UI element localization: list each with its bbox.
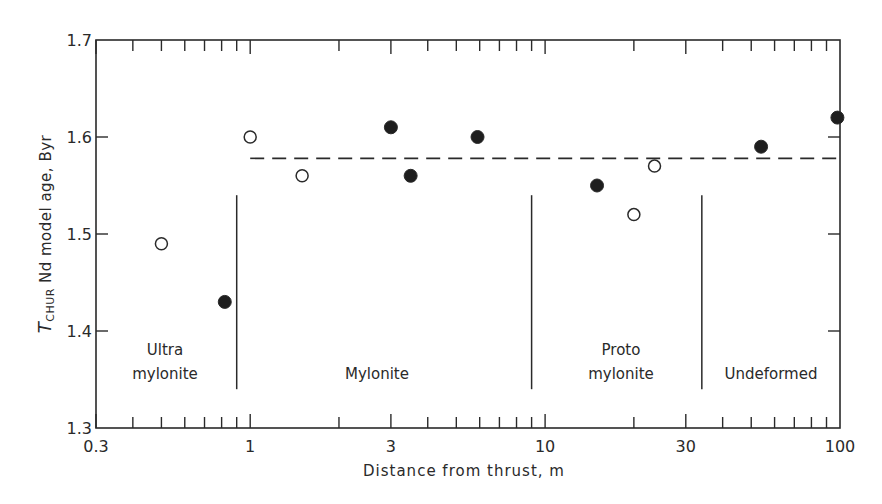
zone-label-mylonite: Mylonite	[345, 365, 409, 383]
zone-label-proto-mylonite-2: mylonite	[588, 365, 654, 383]
open-circle-point	[649, 160, 661, 172]
y-label-subscript: CHUR	[44, 288, 57, 322]
zone-dividers	[237, 195, 702, 389]
svg-text:TCHURNd model age, Byr: TCHURNd model age, Byr	[34, 134, 57, 333]
x-tick-label: 0.3	[83, 437, 108, 456]
zone-label-ultra-mylonite-1: Ultra	[147, 341, 183, 359]
filled-circle-point	[384, 121, 397, 134]
zone-label-ultra-mylonite-2: mylonite	[132, 365, 198, 383]
filled-circle-point	[591, 179, 604, 192]
x-tick-label: 1	[245, 437, 255, 456]
x-tick-label: 30	[676, 437, 696, 456]
y-tick-label: 1.4	[67, 322, 92, 341]
zone-labels: Ultra mylonite Mylonite Proto mylonite U…	[132, 341, 817, 383]
filled-circle-point	[831, 111, 844, 124]
tick-labels: 0.31310301001.31.41.51.61.7	[67, 31, 856, 456]
filled-circle-point	[755, 140, 768, 153]
open-circle-point	[244, 131, 256, 143]
zone-label-proto-mylonite-1: Proto	[602, 341, 641, 359]
y-tick-label: 1.5	[67, 225, 92, 244]
y-tick-label: 1.6	[67, 128, 92, 147]
filled-circle-point	[218, 295, 231, 308]
x-tick-label: 3	[386, 437, 396, 456]
scatter-chart: 0.31310301001.31.41.51.61.7 Ultra myloni…	[0, 0, 882, 504]
filled-circle-point	[404, 169, 417, 182]
zone-label-undeformed: Undeformed	[725, 365, 818, 383]
x-tick-label: 100	[825, 437, 856, 456]
y-tick-label: 1.7	[67, 31, 92, 50]
x-tick-label: 10	[535, 437, 555, 456]
filled-circle-point	[471, 131, 484, 144]
y-axis-label: TCHURNd model age, Byr	[34, 134, 57, 333]
x-axis-label: Distance from thrust, m	[363, 462, 565, 480]
data-points	[155, 111, 843, 308]
open-circle-point	[296, 170, 308, 182]
open-circle-point	[155, 238, 167, 250]
y-tick-label: 1.3	[67, 419, 92, 438]
y-label-rest: Nd model age, Byr	[37, 134, 55, 283]
open-circle-point	[628, 209, 640, 221]
